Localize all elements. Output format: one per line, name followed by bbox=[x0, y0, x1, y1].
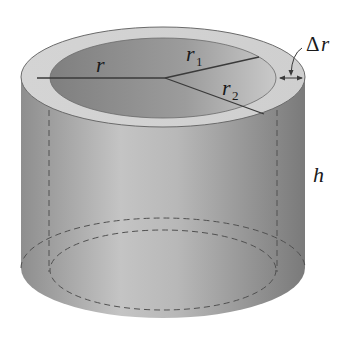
svg-text:2: 2 bbox=[232, 88, 239, 103]
svg-text:r: r bbox=[222, 75, 231, 100]
svg-text:r: r bbox=[321, 32, 330, 56]
svg-text:1: 1 bbox=[196, 54, 203, 69]
label-delta-r: Δ r bbox=[306, 32, 330, 56]
svg-text:r: r bbox=[186, 41, 195, 66]
label-h: h bbox=[313, 162, 324, 187]
svg-text:Δ: Δ bbox=[306, 32, 320, 56]
cylindrical-shell-diagram: r r 1 r 2 Δ r h bbox=[0, 0, 354, 346]
label-r: r bbox=[96, 52, 105, 77]
